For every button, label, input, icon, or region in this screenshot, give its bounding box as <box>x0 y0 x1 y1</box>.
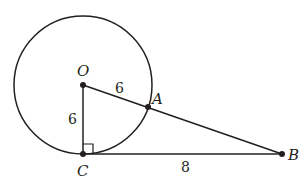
point-a <box>145 104 151 110</box>
label-a: A <box>150 90 163 108</box>
segment-ob <box>83 85 282 154</box>
clipped-caption-remnant <box>20 0 190 3</box>
label-b: B <box>287 146 299 164</box>
point-o <box>80 82 86 88</box>
measure-cb: 8 <box>181 159 190 175</box>
point-c <box>80 151 86 157</box>
measure-oa: 6 <box>115 80 124 96</box>
measure-oc: 6 <box>68 111 77 127</box>
label-o: O <box>77 62 89 80</box>
label-c: C <box>77 162 89 180</box>
point-b <box>279 151 285 157</box>
geometry-diagram: O A B C 6 6 8 <box>0 0 307 184</box>
